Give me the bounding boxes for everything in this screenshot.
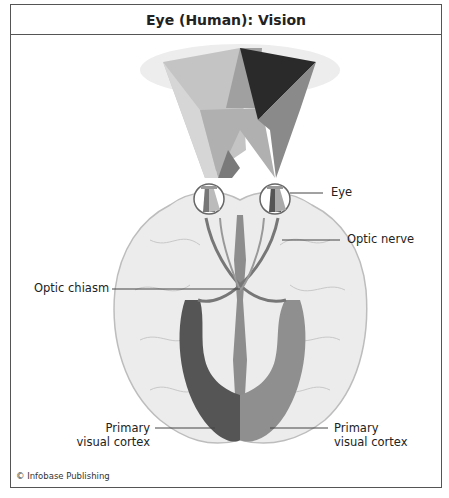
primary-visual-cortex-left-label-line2: visual cortex	[70, 436, 150, 449]
left-eye	[194, 184, 224, 214]
optic-nerve-label: Optic nerve	[347, 233, 414, 246]
right-eye	[260, 184, 290, 214]
vision-pathway-diagram	[0, 0, 449, 498]
brain	[114, 192, 367, 443]
eye-label: Eye	[331, 186, 352, 199]
visual-field	[140, 44, 340, 178]
primary-visual-cortex-right-label-line1: Primary	[334, 422, 378, 435]
primary-visual-cortex-left-label-line1: Primary	[70, 422, 150, 435]
optic-chiasm-label: Optic chiasm	[34, 282, 109, 295]
copyright-credit: © Infobase Publishing	[16, 471, 110, 481]
primary-visual-cortex-right-label-line2: visual cortex	[334, 436, 407, 449]
